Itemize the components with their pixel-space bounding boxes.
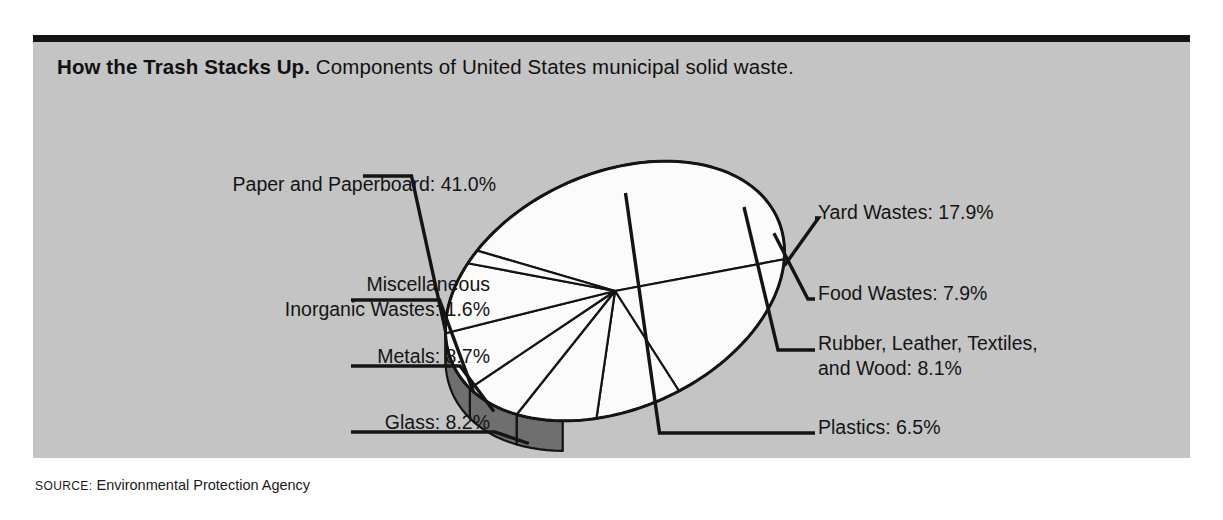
callout-paper-line1: Paper and Paperboard: 41.0% bbox=[233, 172, 496, 197]
pie-3d-group bbox=[445, 161, 784, 451]
pie-chart-area: Paper and Paperboard: 41.0% Miscellaneou… bbox=[33, 88, 1190, 458]
headline-bold: How the Trash Stacks Up. bbox=[57, 55, 310, 78]
source-note: SOURCE: Environmental Protection Agency bbox=[35, 477, 310, 493]
callout-paper-and-paperboard: Paper and Paperboard: 41.0% bbox=[233, 172, 496, 197]
callout-rubber-leather-textiles-and-wood: Rubber, Leather, Textiles, and Wood: 8.1… bbox=[818, 331, 1038, 381]
callout-rubber-line2: and Wood: 8.1% bbox=[818, 356, 1038, 381]
callout-glass: Glass: 8.2% bbox=[385, 410, 490, 435]
chart-panel: How the Trash Stacks Up. Components of U… bbox=[33, 42, 1190, 458]
top-rule-divider bbox=[33, 35, 1190, 42]
callout-food-line1: Food Wastes: 7.9% bbox=[818, 281, 987, 306]
leader-line-yard bbox=[785, 218, 819, 266]
callout-miscellaneous-inorganic-wastes: Miscellaneous Inorganic Wastes: 1.6% bbox=[285, 272, 490, 322]
callout-glass-line1: Glass: 8.2% bbox=[385, 410, 490, 435]
source-value: Environmental Protection Agency bbox=[92, 477, 310, 493]
source-label: SOURCE: bbox=[35, 479, 92, 493]
callout-metals-line1: Metals: 8.7% bbox=[377, 344, 490, 369]
callout-misc-line2: Inorganic Wastes: 1.6% bbox=[285, 297, 490, 322]
headline-rest: Components of United States municipal so… bbox=[310, 55, 794, 78]
page-title: How the Trash Stacks Up. Components of U… bbox=[57, 54, 1157, 80]
figure-container: How the Trash Stacks Up. Components of U… bbox=[0, 0, 1223, 520]
callout-yard-line1: Yard Wastes: 17.9% bbox=[818, 200, 994, 225]
callout-yard-wastes: Yard Wastes: 17.9% bbox=[818, 200, 994, 225]
pie-chart-svg bbox=[33, 88, 1190, 458]
callout-food-wastes: Food Wastes: 7.9% bbox=[818, 281, 987, 306]
callout-plastics: Plastics: 6.5% bbox=[818, 415, 940, 440]
callout-plastics-line1: Plastics: 6.5% bbox=[818, 415, 940, 440]
callout-rubber-line1: Rubber, Leather, Textiles, bbox=[818, 331, 1038, 356]
callout-misc-line1: Miscellaneous bbox=[285, 272, 490, 297]
callout-metals: Metals: 8.7% bbox=[377, 344, 490, 369]
